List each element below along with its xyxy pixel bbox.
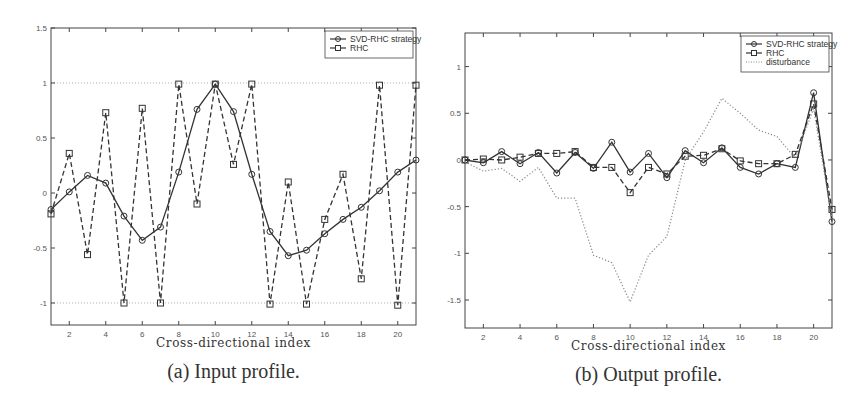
x-tick-label: 20 (393, 330, 402, 339)
series-line (465, 98, 832, 302)
y-tick-label: 0.5 (450, 109, 462, 118)
figure-caption: (b) Output profile. (575, 363, 722, 386)
x-tick-label: 20 (809, 333, 818, 342)
series-svd-rhc-strategy (462, 90, 835, 225)
legend-label: RHC (350, 43, 368, 53)
x-tick-label: 6 (140, 330, 145, 339)
figure-caption: (a) Input profile. (167, 360, 300, 383)
y-tick-label: 1.5 (36, 24, 48, 33)
legend-label: disturbance (766, 57, 810, 67)
series-rhc (48, 81, 419, 308)
series-disturbance (465, 98, 832, 302)
axes-frame (51, 28, 416, 325)
legend: SVD-RHC strategyRHCdisturbance (741, 36, 838, 72)
x-tick-label: 16 (320, 330, 329, 339)
figure: 24681012141618201.510.50-0.5-1SVD-RHC st… (0, 0, 867, 406)
x-tick-label: 18 (772, 333, 781, 342)
x-tick-label: 18 (357, 330, 366, 339)
series-svd-rhc-strategy (48, 81, 419, 259)
y-tick-label: -0.5 (33, 244, 47, 253)
x-axis-label: Cross-directional index (156, 336, 311, 350)
axes-frame (465, 33, 832, 328)
y-tick-label: 1 (43, 79, 48, 88)
output-profile-chart: 246810121416182010.50-0.5-1-1.5SVD-RHC s… (447, 33, 838, 386)
legend-square-icon (752, 51, 757, 56)
x-tick-label: 4 (104, 330, 109, 339)
y-tick-label: 0 (457, 156, 462, 165)
y-tick-label: 1 (457, 63, 462, 72)
y-tick-label: -1 (454, 249, 462, 258)
x-tick-label: 2 (481, 333, 486, 342)
series-line (51, 84, 416, 305)
square-marker (701, 152, 707, 158)
legend-square-icon (336, 46, 341, 51)
x-tick-label: 6 (555, 333, 560, 342)
x-axis-label: Cross-directional index (571, 339, 726, 353)
y-tick-label: 0.5 (36, 134, 48, 143)
y-tick-label: -1 (40, 299, 48, 308)
series-line (465, 93, 832, 222)
legend: SVD-RHC strategyRHC (325, 31, 422, 58)
x-tick-label: 4 (518, 333, 523, 342)
x-tick-label: 16 (736, 333, 745, 342)
x-tick-label: 2 (67, 330, 72, 339)
y-tick-label: 0 (43, 189, 48, 198)
y-tick-label: -0.5 (447, 203, 461, 212)
input-profile-chart: 24681012141618201.510.50-0.5-1SVD-RHC st… (33, 24, 422, 383)
y-tick-label: -1.5 (447, 296, 461, 305)
